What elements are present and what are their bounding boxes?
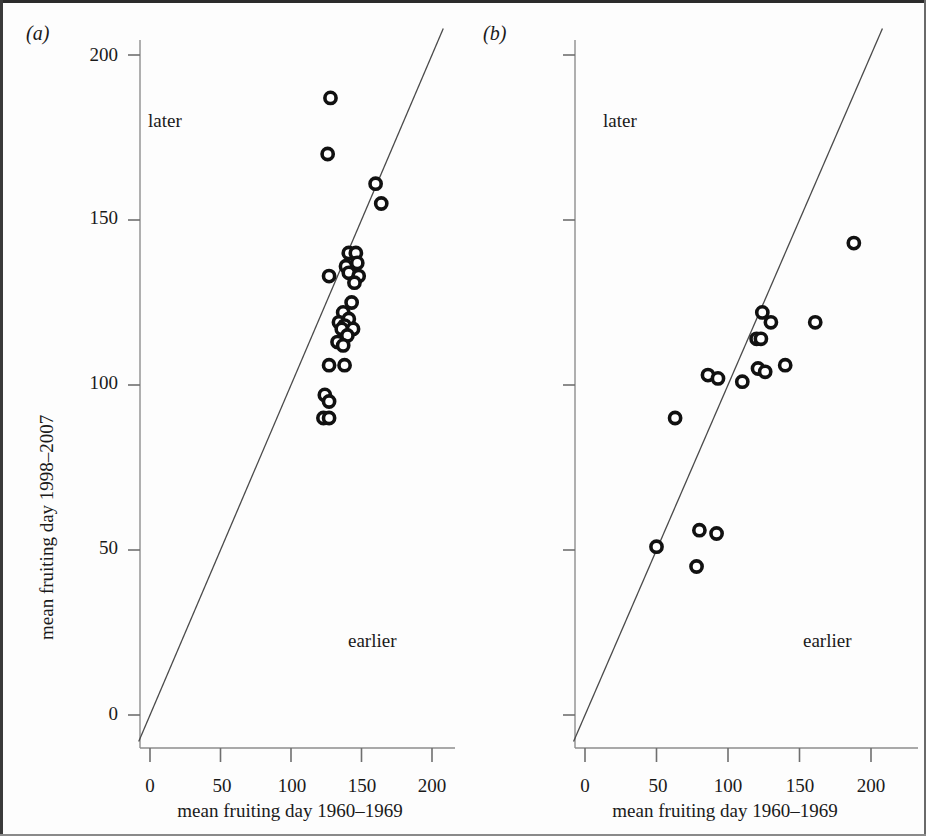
figure-container: (a) later earlier 200 150 100 50 0 0 50 … — [0, 0, 926, 836]
panel-a: (a) later earlier 200 150 100 50 0 0 50 … — [0, 0, 463, 836]
reference-line-1to1 — [574, 29, 883, 742]
data-point — [712, 373, 723, 384]
data-point — [325, 92, 336, 103]
data-point — [323, 360, 334, 371]
data-point — [755, 333, 766, 344]
data-series-fungal-species — [318, 92, 387, 423]
data-point — [338, 340, 349, 351]
data-series-fungal-species — [651, 238, 860, 573]
data-point — [370, 178, 381, 189]
data-point — [810, 317, 821, 328]
data-point — [848, 238, 859, 249]
data-point — [780, 360, 791, 371]
data-point — [669, 412, 680, 423]
data-point — [349, 277, 360, 288]
data-point — [323, 412, 334, 423]
data-point — [760, 366, 771, 377]
data-point — [737, 376, 748, 387]
data-point — [323, 396, 334, 407]
reference-line-1to1 — [139, 29, 444, 742]
panel-b: (b) later earlier 0 50 100 150 200 mean … — [463, 0, 926, 836]
data-point — [346, 297, 357, 308]
data-point — [322, 148, 333, 159]
data-point — [694, 525, 705, 536]
data-point — [376, 198, 387, 209]
data-point — [339, 360, 350, 371]
data-point — [765, 317, 776, 328]
panel-a-plot — [0, 0, 463, 836]
data-point — [711, 528, 722, 539]
data-point — [691, 561, 702, 572]
data-point — [323, 271, 334, 282]
panel-b-plot — [463, 0, 926, 836]
data-point — [757, 307, 768, 318]
data-point — [651, 541, 662, 552]
